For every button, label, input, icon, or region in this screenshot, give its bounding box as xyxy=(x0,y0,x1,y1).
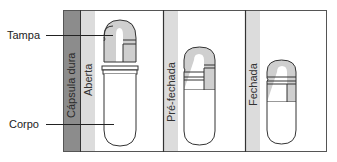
open-label: Aberta xyxy=(82,64,94,96)
closed-capsule xyxy=(267,60,296,144)
body-label: Corpo xyxy=(9,118,39,130)
cap-label: Tampa xyxy=(7,29,40,41)
hard-capsule-diagram: Tampa Corpo Cápsula dura Aberta Pré-fech… xyxy=(0,0,337,162)
open-capsule xyxy=(102,20,138,146)
pre-closed-label: Pré-fechada xyxy=(165,62,177,122)
hard-capsule-label: Cápsula dura xyxy=(65,53,77,118)
closed-label: Fechada xyxy=(247,63,259,106)
pre-closed-capsule xyxy=(184,47,215,145)
